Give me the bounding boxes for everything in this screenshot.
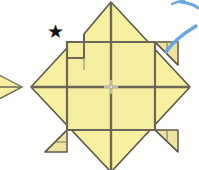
star-marker: ★ bbox=[47, 20, 64, 42]
origami-figure: ★ bbox=[0, 0, 199, 170]
origami-diagram-svg: ★ bbox=[0, 0, 199, 170]
